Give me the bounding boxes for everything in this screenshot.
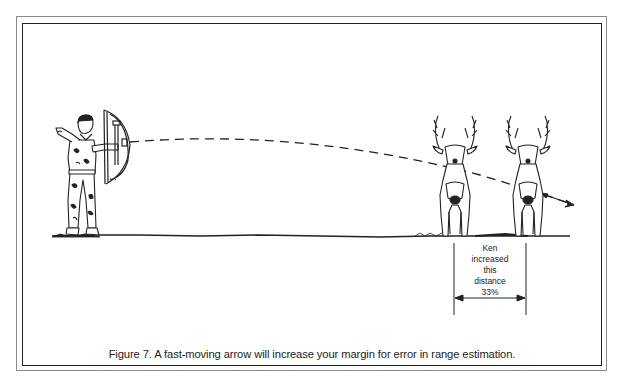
arrow-trajectory — [130, 139, 572, 204]
annotation-line: this — [462, 265, 518, 276]
annotation-line: Ken — [462, 243, 518, 254]
annotation-line: increased — [462, 254, 518, 265]
annotation-line: 33% — [462, 287, 518, 298]
distance-annotation: Ken increased this distance 33% — [462, 243, 518, 298]
archer — [56, 115, 118, 235]
annotation-line: distance — [462, 276, 518, 287]
deer-near — [433, 116, 477, 236]
figure-caption: Figure 7. A fast-moving arrow will incre… — [22, 348, 602, 360]
ground — [52, 233, 570, 237]
deer-far — [506, 116, 550, 236]
illustration — [0, 0, 617, 386]
arrow — [540, 193, 574, 207]
